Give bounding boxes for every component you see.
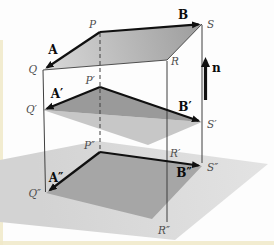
figure-svg: P Q R S P′ Q′ R′ S′ P″ Q″ R″ S″ A B A′ B… [0, 0, 274, 245]
label-R-prime: R′ [169, 147, 181, 159]
label-vector-B-prime: B′ [178, 100, 191, 114]
label-vector-n: n [212, 61, 221, 75]
label-Q: Q [28, 63, 37, 76]
label-vector-A-double-prime: A″ [48, 171, 64, 185]
label-P: P [88, 18, 97, 30]
label-Q-prime: Q′ [26, 103, 38, 116]
page-edge-bottom [0, 241, 274, 245]
label-R: R [170, 55, 179, 67]
label-S: S [207, 18, 214, 30]
label-vector-B: B [178, 8, 188, 22]
label-vector-A-prime: A′ [50, 87, 63, 101]
label-vector-B-double-prime: B″ [176, 166, 192, 180]
label-R-double-prime: R″ [157, 224, 170, 236]
vector-planes-figure: P Q R S P′ Q′ R′ S′ P″ Q″ R″ S″ A B A′ B… [0, 0, 274, 245]
label-vector-A: A [47, 43, 58, 57]
label-P-double-prime: P″ [83, 139, 95, 151]
label-Q-double-prime: Q″ [28, 187, 41, 200]
label-P-prime: P′ [85, 74, 96, 86]
label-S-prime: S′ [207, 118, 217, 130]
label-S-double-prime: S″ [207, 161, 218, 173]
